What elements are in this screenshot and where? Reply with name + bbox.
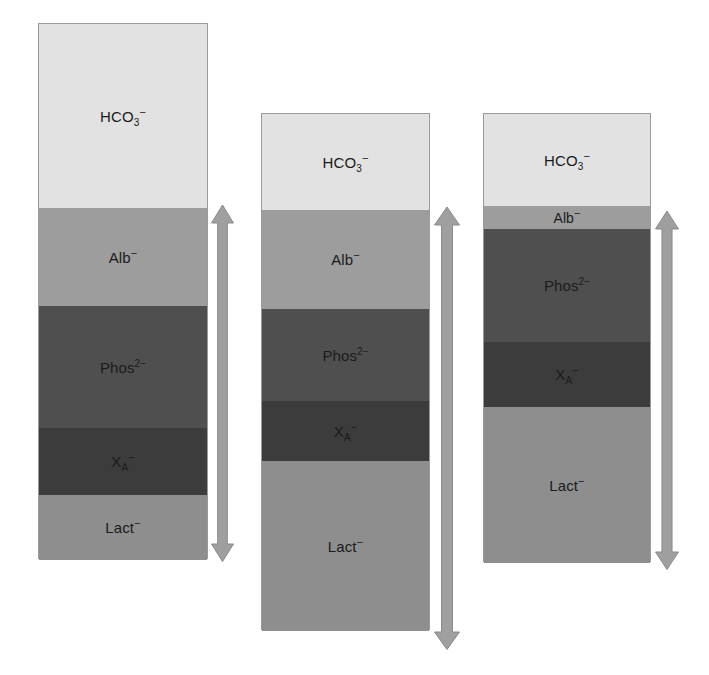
stacked-bar-figure: HCO3−Alb−Phos2−XA−Lact−HCO3−Alb−Phos2−XA… [0,0,709,675]
bar-segment-hco3: HCO3− [39,24,207,208]
bar-segment-hco3: HCO3− [484,114,650,206]
bar-segment-phos: Phos2− [262,309,429,401]
bar-segment-lact: Lact− [484,407,650,563]
bar-segment-lact: Lact− [262,461,429,631]
stacked-bar-column-1: HCO3−Alb−Phos2−XA−Lact− [38,23,208,559]
stacked-bar-column-2: HCO3−Alb−Phos2−XA−Lact− [261,113,430,630]
double-arrow-glyph [655,211,679,570]
bar-segment-lact: Lact− [39,495,207,560]
range-arrow-column-1 [211,205,234,562]
bar-segment-xa: XA− [262,401,429,461]
segment-label-lact: Lact− [549,478,584,493]
stacked-bar-column-3: HCO3−Alb−Phos2−XA−Lact− [483,113,651,562]
segment-label-hco3: HCO3− [323,155,369,170]
segment-label-xa: XA− [111,454,134,469]
segment-label-lact: Lact− [328,539,363,554]
bar-segment-phos: Phos2− [484,229,650,342]
segment-label-hco3: HCO3− [100,109,146,124]
bar-segment-alb: Alb− [262,210,429,309]
bar-segment-xa: XA− [484,342,650,407]
double-arrow-glyph [434,207,460,650]
segment-label-hco3: HCO3− [544,153,590,168]
bar-segment-hco3: HCO3− [262,114,429,210]
segment-label-xa: XA− [555,367,578,382]
double-arrow-glyph [211,205,234,562]
segment-label-phos: Phos2− [322,348,368,363]
bar-segment-alb: Alb− [39,208,207,306]
bar-segment-phos: Phos2− [39,306,207,428]
bar-segment-xa: XA− [39,428,207,495]
bar-segment-alb: Alb− [484,206,650,229]
range-arrow-column-3 [655,211,679,570]
segment-label-alb: Alb− [331,252,360,267]
segment-label-xa: XA− [334,424,357,439]
segment-label-phos: Phos2− [100,360,146,375]
segment-label-alb: Alb− [553,211,580,225]
segment-label-alb: Alb− [109,250,138,265]
range-arrow-column-2 [434,207,460,650]
segment-label-lact: Lact− [105,520,140,535]
segment-label-phos: Phos2− [544,278,590,293]
